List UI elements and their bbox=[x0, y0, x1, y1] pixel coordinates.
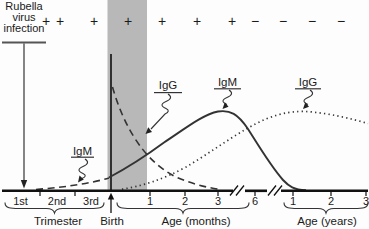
serology-symbol: + bbox=[124, 13, 132, 29]
igg-maternal-squiggle-arrow bbox=[151, 94, 171, 129]
igm-infant-arrowhead-icon bbox=[223, 102, 229, 109]
years-brace bbox=[284, 203, 368, 214]
igg-maternal-label-group: IgG bbox=[146, 79, 183, 134]
tick-label-1st: 1st bbox=[13, 195, 28, 207]
birth-marker bbox=[108, 193, 114, 213]
tick-label-year-1: 1 bbox=[290, 195, 296, 207]
tick-label-3rd: 3rd bbox=[83, 195, 99, 207]
months-axis-label: Age (months) bbox=[161, 215, 230, 227]
tick-label-month-6: 6 bbox=[252, 195, 258, 207]
igm-fetal-dashed-curve bbox=[36, 178, 109, 190]
congenital-rubella-serology-figure: + + + + + + + − − − − Rubella virus infe… bbox=[0, 0, 369, 229]
tick-label-month-3: 3 bbox=[215, 195, 221, 207]
igm-fetal-label-group: IgM bbox=[71, 145, 94, 183]
x-axis-tick-labels: 1st 2nd 3rd 1 2 3 6 1 2 3 bbox=[13, 195, 369, 207]
infection-annotation: Rubella virus infection bbox=[2, 0, 46, 189]
serology-symbol: + bbox=[158, 13, 166, 29]
axis-break-icon bbox=[268, 186, 282, 196]
tick-label-2nd: 2nd bbox=[48, 195, 66, 207]
tick-label-year-2: 2 bbox=[328, 195, 334, 207]
tick-label-month-1: 1 bbox=[147, 195, 153, 207]
igg-infant-dotted-curve bbox=[122, 111, 368, 189]
serology-symbol-row: + + + + + + + − − − − bbox=[42, 13, 345, 29]
serology-symbol: − bbox=[337, 13, 345, 29]
igm-fetal-label: IgM bbox=[73, 145, 92, 157]
serology-symbol: − bbox=[251, 13, 259, 29]
infection-label-line3: infection bbox=[4, 22, 45, 34]
igm-infant-squiggle-arrow bbox=[223, 90, 232, 105]
igg-infant-arrowhead-icon bbox=[303, 102, 309, 109]
serology-symbol: + bbox=[228, 13, 236, 29]
serology-symbol: + bbox=[193, 13, 201, 29]
igg-infant-label-group: IgG bbox=[295, 76, 321, 110]
birth-arrowhead-icon bbox=[108, 193, 114, 200]
years-axis-label: Age (years) bbox=[297, 215, 357, 227]
igg-maternal-label: IgG bbox=[159, 79, 178, 91]
igm-fetal-squiggle-arrow bbox=[79, 159, 88, 179]
serology-symbol: + bbox=[56, 13, 64, 29]
igm-infant-label: IgM bbox=[218, 76, 237, 88]
igg-infant-label: IgG bbox=[299, 76, 318, 88]
birth-axis-label: Birth bbox=[100, 215, 124, 227]
serology-symbol: + bbox=[90, 13, 98, 29]
tick-label-month-2: 2 bbox=[182, 195, 188, 207]
serology-symbol: − bbox=[279, 13, 287, 29]
x-axis-group-labels: Trimester Birth Age (months) Age (years) bbox=[34, 215, 357, 227]
igm-fetal-arrowhead-icon bbox=[78, 176, 84, 183]
trimester-axis-label: Trimester bbox=[34, 215, 82, 227]
infection-timing-arrowhead-icon bbox=[21, 180, 27, 189]
igm-infant-label-group: IgM bbox=[214, 76, 241, 110]
figure-canvas: + + + + + + + − − − − Rubella virus infe… bbox=[0, 0, 369, 229]
serology-symbol: − bbox=[308, 13, 316, 29]
